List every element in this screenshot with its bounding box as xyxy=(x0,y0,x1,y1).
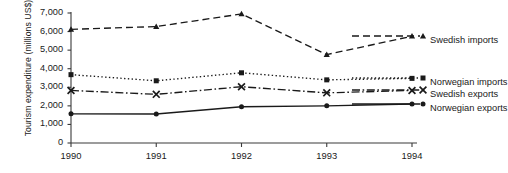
legend-label: Norwegian exports xyxy=(430,103,508,114)
legend-swatch-square-icon xyxy=(352,72,436,84)
legend-marker xyxy=(421,76,426,81)
data-point-marker xyxy=(324,103,329,108)
data-point-marker xyxy=(69,72,74,77)
legend-swatch-triangle-icon xyxy=(352,30,436,42)
legend-label: Swedish exports xyxy=(430,89,498,100)
data-point-marker xyxy=(154,112,159,117)
data-point-marker xyxy=(239,70,244,75)
legend-marker xyxy=(420,33,426,39)
legend-marker xyxy=(421,102,426,107)
data-point-marker xyxy=(239,104,244,109)
data-point-marker xyxy=(69,111,74,116)
legend-marker xyxy=(420,87,427,94)
legend-label: Norwegian imports xyxy=(430,77,508,88)
data-point-marker xyxy=(153,91,160,98)
legend-swatch-circle-icon xyxy=(352,98,436,110)
legend-swatch-cross-icon xyxy=(352,84,436,96)
data-point-marker xyxy=(154,78,159,83)
data-point-marker xyxy=(324,77,329,82)
legend-label: Swedish imports xyxy=(430,35,498,46)
